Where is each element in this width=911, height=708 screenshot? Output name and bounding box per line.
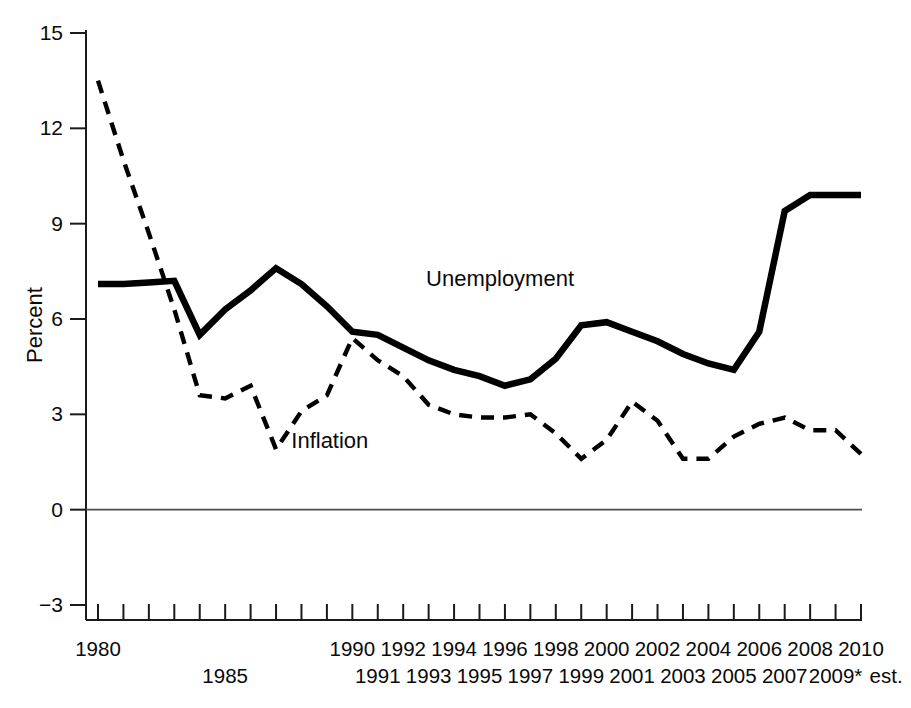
x-tick-labels-upper-row: 1980199019921994199619982000200220042006… xyxy=(75,637,884,660)
x-tick-label: 1997 xyxy=(508,664,554,687)
x-tick-marks xyxy=(98,604,861,620)
x-tick-label: 1990 xyxy=(330,637,376,660)
x-tick-label: 1993 xyxy=(406,664,452,687)
x-tick-label: 2009* xyxy=(809,664,863,687)
y-tick-label: 12 xyxy=(40,116,63,139)
x-tick-label: 1995 xyxy=(457,664,503,687)
x-tick-label: 2000 xyxy=(584,637,630,660)
y-axis-group: −303691215 Percent xyxy=(22,21,86,620)
series-unemployment-label: Unemployment xyxy=(426,266,574,291)
x-axis-group: 1980199019921994199619982000200220042006… xyxy=(75,604,902,687)
x-tick-label: 2004 xyxy=(686,637,732,660)
y-tick-label: −3 xyxy=(39,593,63,616)
x-tick-label: 2006 xyxy=(736,637,782,660)
x-tick-label: 2010 xyxy=(838,637,884,660)
line-chart: −303691215 Percent 198019901992199419961… xyxy=(0,0,911,708)
y-tick-label: 0 xyxy=(51,498,63,521)
y-tick-label: 15 xyxy=(40,21,63,44)
x-tick-label: 2002 xyxy=(635,637,681,660)
y-tick-label: 9 xyxy=(51,212,63,235)
x-tick-label: 2008 xyxy=(787,637,833,660)
y-axis-title: Percent xyxy=(22,287,47,363)
x-tick-label: 1999 xyxy=(558,664,604,687)
x-tick-label: 1998 xyxy=(533,637,579,660)
y-tick-label: 6 xyxy=(51,307,63,330)
x-tick-label: 1985 xyxy=(202,664,248,687)
y-tick-label: 3 xyxy=(51,402,63,425)
x-tick-label: 2003 xyxy=(660,664,706,687)
x-tick-label: 2001 xyxy=(609,664,655,687)
y-tick-marks xyxy=(70,33,86,605)
x-tick-label: 1994 xyxy=(431,637,477,660)
series-inflation-label: Inflation xyxy=(291,428,368,453)
x-tick-label: 1991 xyxy=(355,664,401,687)
x-axis-estimate-note: est. xyxy=(870,664,903,687)
x-tick-label: 1980 xyxy=(75,637,121,660)
x-tick-label: 1996 xyxy=(482,637,528,660)
x-tick-label: 2007 xyxy=(762,664,808,687)
chart-page: −303691215 Percent 198019901992199419961… xyxy=(0,0,911,708)
x-tick-label: 1992 xyxy=(380,637,426,660)
x-tick-label: 2005 xyxy=(711,664,757,687)
x-tick-labels-lower-row: 1985199119931995199719992001200320052007… xyxy=(202,664,862,687)
